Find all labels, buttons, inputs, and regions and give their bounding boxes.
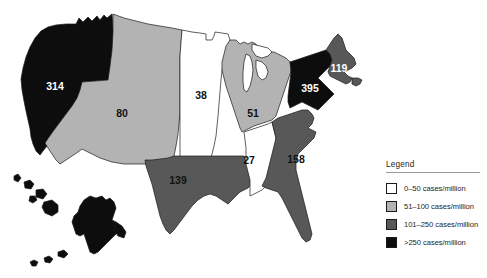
alaska-aleutians-2 [44, 256, 53, 263]
legend-item-51-100[interactable]: 51–100 cases/million [386, 197, 482, 215]
choropleth-map-figure: 314 80 38 51 395 119 139 27 158 Legend 0… [0, 0, 487, 278]
hawaii-island-2 [24, 180, 34, 189]
legend-label-101-250: 101–250 cases/million [404, 220, 478, 229]
alaska-aleutians-3 [58, 250, 68, 258]
legend-label-0-50: 0–50 cases/million [404, 184, 466, 193]
legend-item-101-250[interactable]: 101–250 cases/million [386, 215, 482, 233]
hawaii-island-4 [29, 196, 37, 203]
legend-item-0-50[interactable]: 0–50 cases/million [386, 179, 482, 197]
region-northern-plains[interactable] [180, 30, 230, 160]
legend-swatch-over-250 [386, 237, 397, 248]
hawaii-island-big [42, 200, 58, 216]
alaska-aleutians [30, 260, 38, 266]
legend-swatch-0-50 [386, 183, 397, 194]
legend: Legend 0–50 cases/million 51–100 cases/m… [386, 160, 482, 251]
alaska-panhandle [114, 222, 126, 238]
legend-label-51-100: 51–100 cases/million [404, 202, 474, 211]
hawaii-island-3 [36, 189, 47, 199]
region-mid-atlantic[interactable] [288, 50, 334, 110]
legend-label-over-250: >250 cases/million [404, 238, 466, 247]
legend-swatch-101-250 [386, 219, 397, 230]
region-hawaii[interactable] [14, 174, 21, 182]
legend-item-over-250[interactable]: >250 cases/million [386, 233, 482, 251]
legend-swatch-51-100 [386, 201, 397, 212]
legend-divider [386, 172, 480, 173]
region-alaska[interactable] [72, 196, 120, 254]
legend-title: Legend [386, 160, 482, 172]
cape-cod [352, 78, 362, 86]
region-south-central[interactable] [145, 156, 252, 234]
